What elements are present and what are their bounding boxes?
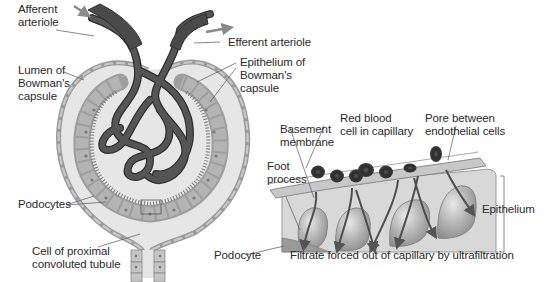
label-red-blood-cell: Red blood cell in capillary (340, 112, 413, 138)
label-epithelium-bowmans-capsule: Epithelium of Bowman's capsule (240, 56, 305, 95)
filtrate-caption: Filtrate forced out of capillary by ultr… (290, 249, 514, 262)
label-podocytes: Podocytes (18, 198, 71, 211)
label-basement-membrane: Basement membrane (280, 123, 334, 149)
label-pore-endothelial: Pore between endothelial cells (425, 112, 505, 138)
bowmans-capsule (59, 4, 248, 282)
label-podocyte: Podocyte (214, 249, 261, 262)
afferent-flow-arrow-icon (74, 6, 86, 14)
proximal-tubule (131, 250, 165, 282)
label-efferent-arteriole: Efferent arteriole (228, 36, 311, 49)
label-cell-proximal-tubule: Cell of proximal convoluted tubule (32, 245, 120, 271)
afferent-arteriole (88, 4, 142, 50)
glomerulus-diagram: Afferent arteriole Efferent arteriole Lu… (0, 0, 546, 282)
label-afferent-arteriole: Afferent arteriole (18, 3, 59, 29)
efferent-flow-arrow-icon (206, 28, 228, 32)
label-lumen-bowmans-capsule: Lumen of Bowman's capsule (18, 64, 70, 103)
label-foot-process: Foot process (267, 160, 307, 186)
label-epithelium: Epithelium (482, 203, 535, 216)
